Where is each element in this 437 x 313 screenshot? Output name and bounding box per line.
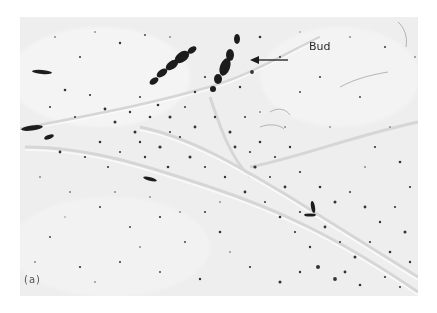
bud-annotation-label: Bud	[309, 40, 331, 53]
micrograph-texture	[20, 17, 418, 296]
panel-label: (a)	[24, 274, 41, 285]
micrograph-photo: Bud (a)	[20, 17, 418, 296]
